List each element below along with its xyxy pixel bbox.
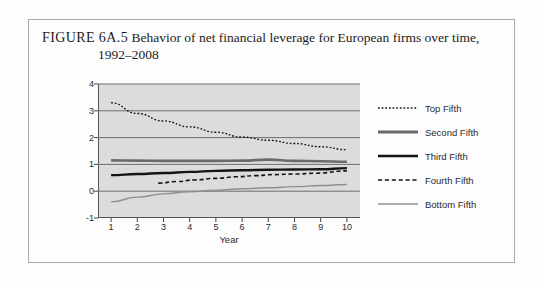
x-tick-label: 1 — [109, 222, 114, 232]
x-tick-label: 10 — [342, 222, 352, 232]
legend-line-icon — [378, 151, 418, 161]
legend-label: Third Fifth — [425, 151, 468, 162]
x-tick-label: 5 — [213, 222, 218, 232]
legend-item[interactable]: Top Fifth — [378, 96, 498, 120]
y-tick-label: 4 — [89, 79, 94, 89]
legend-label: Fourth Fifth — [425, 175, 474, 186]
y-tick-label: 0 — [89, 186, 94, 196]
plot-wrapper: Year -10123412345678910 — [98, 84, 360, 218]
series-line — [111, 103, 347, 150]
legend-item[interactable]: Fourth Fifth — [378, 168, 498, 192]
legend-item[interactable]: Bottom Fifth — [378, 192, 498, 216]
x-axis-label: Year — [98, 234, 360, 245]
legend-item[interactable]: Third Fifth — [378, 144, 498, 168]
figure-caption-line2: 1992–2008 — [98, 46, 502, 63]
figure-label: FIGURE 6A.5 — [42, 30, 128, 45]
plot-lines — [98, 84, 360, 218]
x-tick-label: 7 — [266, 222, 271, 232]
y-tick-label: -1 — [86, 213, 94, 223]
legend-line-icon — [378, 175, 418, 185]
x-tick-label: 2 — [135, 222, 140, 232]
y-tick-label: 3 — [89, 106, 94, 116]
x-tick-label: 8 — [292, 222, 297, 232]
x-tick-label: 6 — [240, 222, 245, 232]
series-line — [111, 160, 347, 162]
figure-caption-line1: Behavior of net financial leverage for E… — [131, 30, 479, 45]
figure-page: FIGURE 6A.5 Behavior of net financial le… — [0, 0, 543, 286]
chart: Net Financial Leverage Year -10123412345… — [52, 78, 492, 248]
figure-caption: FIGURE 6A.5 Behavior of net financial le… — [42, 29, 502, 63]
x-tick-label: 4 — [187, 222, 192, 232]
y-tick-label: 1 — [89, 159, 94, 169]
legend-label: Top Fifth — [425, 103, 461, 114]
x-tick-label: 9 — [318, 222, 323, 232]
legend-line-icon — [378, 103, 418, 113]
legend-label: Bottom Fifth — [425, 199, 476, 210]
legend-line-icon — [378, 127, 418, 137]
legend-line-icon — [378, 199, 418, 209]
legend-item[interactable]: Second Fifth — [378, 120, 498, 144]
y-tick-label: 2 — [89, 133, 94, 143]
chart-legend: Top FifthSecond FifthThird FifthFourth F… — [378, 96, 498, 216]
x-tick-label: 3 — [161, 222, 166, 232]
series-line — [111, 185, 347, 202]
legend-label: Second Fifth — [425, 127, 478, 138]
